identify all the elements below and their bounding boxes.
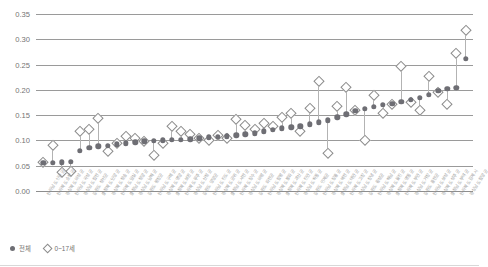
data-point-total xyxy=(96,144,101,149)
data-point-total xyxy=(307,122,312,127)
gridline xyxy=(36,140,473,141)
data-point-total xyxy=(132,140,137,145)
y-axis-labels: 0.350.300.250.200.150.100.050.00 xyxy=(0,14,36,191)
data-point-youth xyxy=(341,82,352,93)
data-point-youth xyxy=(414,105,425,116)
data-point-youth xyxy=(368,90,379,101)
bottom-divider xyxy=(0,265,479,266)
data-point-total xyxy=(243,132,248,137)
y-axis-tick-label: 0.20 xyxy=(0,85,30,94)
data-point-total xyxy=(417,95,422,100)
data-point-total xyxy=(123,141,128,146)
data-point-youth xyxy=(258,118,269,129)
data-point-total xyxy=(178,137,183,142)
y-axis-tick-label: 0.15 xyxy=(0,111,30,120)
open-diamond-icon xyxy=(42,243,52,253)
gridline xyxy=(36,166,473,167)
data-point-youth xyxy=(47,140,58,151)
data-point-total xyxy=(169,137,174,142)
data-point-youth xyxy=(396,60,407,71)
data-point-total xyxy=(325,117,330,122)
data-point-youth xyxy=(359,135,370,146)
data-point-youth xyxy=(332,101,343,112)
data-point-youth xyxy=(460,25,471,36)
gridline xyxy=(36,65,473,66)
legend-label-youth: 0~17세 xyxy=(55,244,75,253)
y-axis-tick-label: 0.35 xyxy=(0,10,30,19)
gridline xyxy=(36,90,473,91)
data-point-youth xyxy=(304,102,315,113)
data-point-total xyxy=(252,131,257,136)
data-point-total xyxy=(151,138,156,143)
x-axis-labels: 전라남도 신안군전라북도 순창군경상북도 의성군전라남도 곡성군경상남도 합천군… xyxy=(36,193,473,245)
data-point-total xyxy=(426,92,431,97)
data-point-total xyxy=(77,148,82,153)
data-point-total xyxy=(215,134,220,139)
data-point-youth xyxy=(313,75,324,86)
data-point-total xyxy=(289,125,294,130)
connector-line xyxy=(318,81,319,122)
gridline xyxy=(36,14,473,15)
data-point-total xyxy=(399,99,404,104)
gridline xyxy=(36,39,473,40)
data-point-total xyxy=(334,114,339,119)
filled-circle-icon xyxy=(10,246,15,251)
data-point-total xyxy=(233,133,238,138)
y-axis-tick-label: 0.25 xyxy=(0,60,30,69)
y-axis-tick-label: 0.00 xyxy=(0,187,30,196)
data-point-youth xyxy=(93,112,104,123)
data-point-total xyxy=(68,159,73,164)
data-point-total xyxy=(279,126,284,131)
data-point-total xyxy=(316,120,321,125)
data-point-youth xyxy=(424,70,435,81)
connector-line xyxy=(456,53,457,87)
legend-label-total: 전체 xyxy=(19,244,31,253)
data-point-total xyxy=(270,127,275,132)
data-point-youth xyxy=(323,148,334,159)
data-point-total xyxy=(50,160,55,165)
data-point-total xyxy=(87,145,92,150)
data-point-total xyxy=(463,56,468,61)
data-point-youth xyxy=(442,99,453,110)
data-point-youth xyxy=(148,149,159,160)
data-point-total xyxy=(59,159,64,164)
y-axis-tick-label: 0.05 xyxy=(0,161,30,170)
data-point-youth xyxy=(451,48,462,59)
data-point-total xyxy=(362,106,367,111)
data-point-total xyxy=(380,102,385,107)
y-axis-tick-label: 0.10 xyxy=(0,136,30,145)
data-point-youth xyxy=(378,107,389,118)
chart-legend: 전체 0~17세 xyxy=(10,244,75,253)
y-axis-tick-label: 0.30 xyxy=(0,35,30,44)
data-point-total xyxy=(371,104,376,109)
legend-item-youth: 0~17세 xyxy=(44,244,75,253)
plot-area xyxy=(36,14,473,191)
legend-item-total: 전체 xyxy=(10,244,31,253)
data-point-total xyxy=(261,129,266,134)
data-point-youth xyxy=(84,124,95,135)
